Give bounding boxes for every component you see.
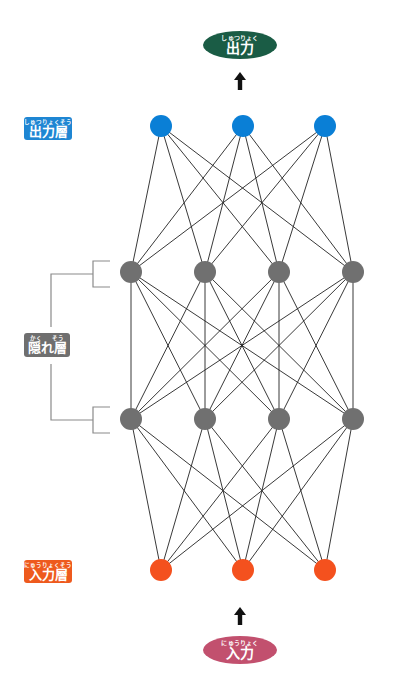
input-node-2 — [314, 559, 336, 581]
output-node-0 — [150, 115, 172, 137]
nodes — [120, 115, 364, 581]
hidden-1-node-0 — [120, 261, 142, 283]
edge-output-1-to-hidden-1-0 — [131, 126, 243, 272]
edge-output-0-to-hidden-1-3 — [161, 126, 353, 272]
arrow-up-icon-output — [234, 72, 246, 90]
hidden-1-node-3 — [342, 261, 364, 283]
edge-output-1-to-hidden-1-1 — [205, 126, 243, 272]
input-node-1 — [232, 559, 254, 581]
output-pill: しゅつりょく 出力 — [203, 31, 277, 59]
edge-output-2-to-hidden-1-2 — [279, 126, 325, 272]
hidden-layer-text: 隠れ層 — [24, 341, 70, 355]
input-node-0 — [150, 559, 172, 581]
bracket-connector-top — [51, 274, 93, 327]
edge-output-0-to-hidden-1-0 — [131, 126, 161, 272]
edge-hidden-2-0-to-input-2 — [131, 419, 325, 570]
edge-hidden-2-3-to-input-0 — [161, 419, 353, 570]
hidden-2-node-0 — [120, 408, 142, 430]
edge-output-0-to-hidden-1-1 — [161, 126, 205, 272]
edge-hidden-2-1-to-input-0 — [161, 419, 205, 570]
input-layer-label: にゅうりょくそう 入力層 — [24, 560, 72, 583]
edge-hidden-2-0-to-input-1 — [131, 419, 243, 570]
hidden-2-node-2 — [268, 408, 290, 430]
bracket-bottom — [93, 407, 110, 433]
input-layer-text: 入力層 — [24, 568, 72, 582]
hidden-2-node-1 — [194, 408, 216, 430]
edge-output-1-to-hidden-1-3 — [243, 126, 353, 272]
hidden-1-node-2 — [268, 261, 290, 283]
output-pill-text: 出力 — [203, 41, 277, 56]
input-pill-text: 入力 — [203, 646, 277, 661]
edge-hidden-2-0-to-input-0 — [131, 419, 161, 570]
output-layer-label: しゅつりょくそう 出力層 — [24, 117, 72, 140]
hidden-layer-label: かく そう 隠れ層 — [24, 333, 70, 357]
arrow-up-icon-input — [234, 607, 246, 625]
output-node-1 — [232, 115, 254, 137]
edge-hidden-2-3-to-input-1 — [243, 419, 353, 570]
bracket-top — [93, 261, 110, 287]
edge-output-2-to-hidden-1-1 — [205, 126, 325, 272]
edge-output-2-to-hidden-1-0 — [131, 126, 325, 272]
input-pill: にゅうりょく 入力 — [203, 636, 277, 664]
hidden-1-node-1 — [194, 261, 216, 283]
edge-hidden-2-1-to-input-1 — [205, 419, 243, 570]
hidden-2-node-3 — [342, 408, 364, 430]
edge-hidden-2-3-to-input-2 — [325, 419, 353, 570]
edge-hidden-2-1-to-input-2 — [205, 419, 325, 570]
connections — [131, 126, 353, 570]
output-layer-text: 出力層 — [24, 125, 72, 139]
output-node-2 — [314, 115, 336, 137]
bracket-connector-bottom — [51, 364, 93, 420]
edge-output-2-to-hidden-1-3 — [325, 126, 353, 272]
edge-hidden-2-2-to-input-2 — [279, 419, 325, 570]
